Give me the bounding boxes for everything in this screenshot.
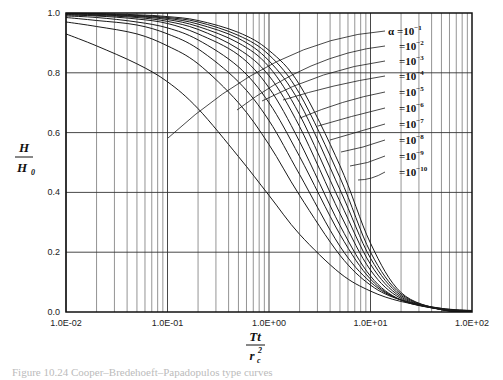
figure-caption: Figure 10.24 Cooper–Bredehoeft–Papadopul… [12, 366, 273, 378]
leader-line [330, 124, 385, 140]
y-tick-label: 0.8 [47, 68, 60, 78]
x-tick-label: 1.0E+01 [354, 318, 388, 328]
x-title-denominator-sup: 2 [257, 346, 262, 355]
leader-line [168, 31, 385, 138]
leader-line [358, 172, 385, 180]
y-title-numerator: H [18, 140, 30, 155]
x-tick-label: 1.0E-01 [152, 318, 184, 328]
alpha-label: =10−5 [399, 85, 424, 98]
label-leader-lines [168, 31, 385, 180]
alpha-label: =10−8 [399, 133, 424, 146]
y-tick-label: 0.0 [47, 307, 60, 317]
x-title-denominator-sub: c [257, 356, 261, 365]
x-axis-title: Tt r 2 c [246, 329, 265, 365]
y-title-denominator: H [16, 160, 28, 175]
leader-line [283, 76, 385, 100]
alpha-label: =10−10 [399, 165, 428, 178]
y-axis-ticks: 0.00.20.40.60.81.0 [47, 8, 60, 317]
y-tick-label: 0.2 [47, 247, 60, 257]
y-axis-title: H H 0 [15, 140, 35, 177]
x-tick-label: 1.0E-02 [50, 318, 82, 328]
alpha-label: =10−3 [399, 54, 424, 67]
y-title-denominator-sub: 0 [31, 168, 35, 177]
alpha-label: =10−9 [399, 149, 424, 162]
y-tick-label: 0.6 [47, 128, 60, 138]
leader-line [318, 108, 385, 126]
leader-line [300, 92, 385, 118]
alpha-labels: α =10−1=10−2=10−3=10−4=10−5=10−6=10−7=10… [388, 24, 428, 178]
alpha-label: α =10−1 [388, 24, 422, 37]
leader-line [341, 140, 385, 152]
x-axis-ticks: 1.0E-021.0E-011.0E+001.0E+011.0E+02 [50, 318, 489, 328]
y-tick-label: 1.0 [47, 8, 60, 18]
y-tick-label: 0.4 [47, 187, 60, 197]
leader-line [350, 156, 385, 166]
alpha-label: =10−6 [399, 101, 424, 114]
alpha-label: =10−4 [399, 69, 424, 82]
slug-test-type-curve-chart: 0.00.20.40.60.81.0 1.0E-021.0E-011.0E+00… [0, 0, 503, 380]
alpha-label: =10−7 [399, 117, 424, 130]
x-tick-label: 1.0E+02 [455, 318, 489, 328]
x-title-numerator: Tt [249, 329, 261, 344]
alpha-label: =10−2 [399, 39, 424, 52]
x-title-denominator: r [249, 348, 255, 363]
x-tick-label: 1.0E+00 [252, 318, 286, 328]
